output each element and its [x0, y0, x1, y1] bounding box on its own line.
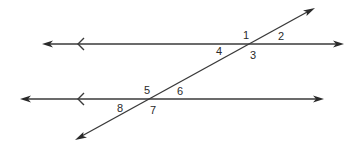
angle-label-8: 8: [117, 102, 123, 114]
transversal-line: [80, 11, 309, 137]
parallel-lines-diagram: 12435687: [0, 0, 360, 149]
angle-label-4: 4: [216, 45, 222, 57]
arrowhead-transversal-bottom-icon: [75, 132, 87, 140]
angle-label-5: 5: [144, 84, 150, 96]
angle-label-3: 3: [250, 49, 256, 61]
angle-label-6: 6: [177, 85, 183, 97]
angle-label-2: 2: [278, 30, 284, 42]
diagram-canvas: 12435687: [0, 0, 360, 149]
angle-label-7: 7: [150, 104, 156, 116]
angle-label-1: 1: [243, 29, 249, 41]
arrowhead-transversal-top-icon: [303, 8, 315, 16]
